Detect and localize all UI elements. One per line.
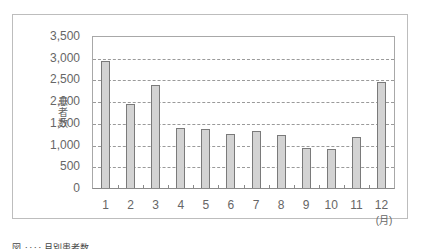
x-tick <box>294 185 295 188</box>
y-tick-label: 3,000 <box>50 52 80 64</box>
bar-7 <box>252 131 261 188</box>
x-tick-label: 7 <box>246 199 266 211</box>
x-tick <box>244 185 245 188</box>
x-tick <box>269 185 270 188</box>
x-tick-label: 4 <box>171 199 191 211</box>
x-tick-label: 1 <box>96 199 116 211</box>
x-tick-label: 12 <box>371 199 391 211</box>
x-tick <box>218 185 219 188</box>
gridline <box>93 80 394 81</box>
x-tick-label: 6 <box>221 199 241 211</box>
figure-caption: 図 ‥‥ 月別患者数 <box>12 241 89 249</box>
bar-1 <box>101 61 110 188</box>
bar-8 <box>277 135 286 188</box>
bar-11 <box>352 137 361 188</box>
x-tick <box>168 185 169 188</box>
x-tick-label: 3 <box>146 199 166 211</box>
x-tick-label: 9 <box>296 199 316 211</box>
plot-area <box>92 36 395 189</box>
y-tick-label: 2,000 <box>50 95 80 107</box>
x-tick <box>369 185 370 188</box>
x-tick <box>319 185 320 188</box>
gridline <box>93 102 394 103</box>
x-tick <box>118 185 119 188</box>
bar-12 <box>377 82 386 188</box>
gridline <box>93 124 394 125</box>
bar-6 <box>226 134 235 188</box>
bar-4 <box>176 128 185 188</box>
x-tick-label: 2 <box>121 199 141 211</box>
x-axis-unit: (月) <box>372 212 396 227</box>
y-tick-label: 0 <box>73 182 80 194</box>
y-tick-label: 1,000 <box>50 139 80 151</box>
bar-9 <box>302 148 311 188</box>
x-tick <box>143 185 144 188</box>
bar-2 <box>126 104 135 188</box>
y-tick-label: 500 <box>60 160 80 172</box>
x-tick-label: 5 <box>196 199 216 211</box>
y-tick-label: 2,500 <box>50 73 80 85</box>
x-tick <box>344 185 345 188</box>
gridline <box>93 146 394 147</box>
x-tick-label: 8 <box>271 199 291 211</box>
x-tick-label: 10 <box>321 199 341 211</box>
y-tick-label: 3,500 <box>50 30 80 42</box>
bar-5 <box>201 129 210 188</box>
x-tick <box>193 185 194 188</box>
gridline <box>93 59 394 60</box>
y-tick-label: 1,500 <box>50 117 80 129</box>
bar-10 <box>327 149 336 188</box>
x-tick-label: 11 <box>346 199 366 211</box>
bar-3 <box>151 85 160 188</box>
gridline <box>93 167 394 168</box>
